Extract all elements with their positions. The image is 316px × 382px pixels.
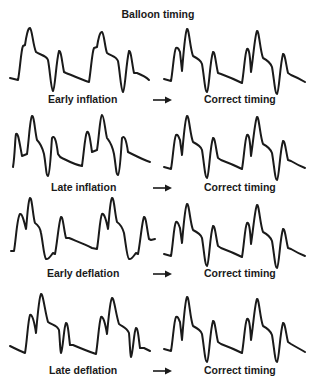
row-3-left-label: Early deflation bbox=[47, 267, 119, 279]
right-arrow-icon bbox=[153, 270, 173, 278]
waveform-late-inflation bbox=[0, 110, 160, 185]
waveform-late-deflation bbox=[0, 290, 160, 365]
row-3-right-label: Correct timing bbox=[204, 267, 276, 279]
row-2-left-label: Late inflation bbox=[51, 181, 116, 193]
diagram-title: Balloon timing bbox=[0, 8, 316, 20]
row-2-right-label: Correct timing bbox=[204, 181, 276, 193]
waveform-correct-1 bbox=[155, 20, 316, 95]
row-1-left-label: Early inflation bbox=[48, 93, 117, 105]
waveform-early-inflation bbox=[0, 20, 160, 95]
right-arrow-icon bbox=[153, 367, 173, 375]
waveform-early-deflation bbox=[0, 195, 160, 270]
waveform-correct-4 bbox=[155, 290, 316, 365]
row-4-right-label: Correct timing bbox=[204, 364, 276, 376]
row-4-left-label: Late deflation bbox=[49, 364, 117, 376]
waveform-correct-2 bbox=[155, 110, 316, 185]
right-arrow-icon bbox=[153, 184, 173, 192]
right-arrow-icon bbox=[153, 96, 173, 104]
row-1-right-label: Correct timing bbox=[204, 93, 276, 105]
waveform-correct-3 bbox=[155, 200, 316, 275]
